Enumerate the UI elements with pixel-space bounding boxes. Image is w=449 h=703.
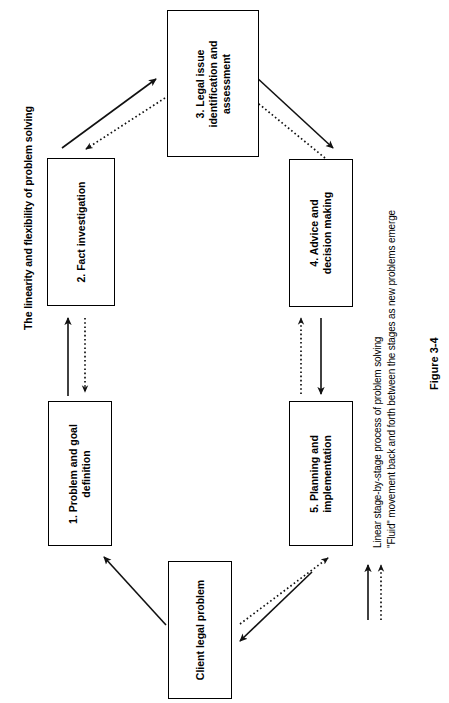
legend-item-fluid-label: "Fluid" movement back and forth between … (386, 210, 398, 548)
legend-item-linear-label: Linear stage-by-stage process of problem… (372, 337, 384, 548)
figure-canvas: The linearity and flexibility of problem… (0, 0, 449, 703)
figure-caption: Figure 3-4 (428, 337, 441, 390)
